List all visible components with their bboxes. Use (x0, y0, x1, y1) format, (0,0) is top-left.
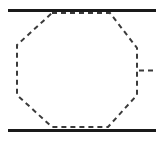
figure-canvas (0, 0, 156, 142)
technical-drawing (0, 0, 156, 142)
figure-background (0, 0, 156, 142)
